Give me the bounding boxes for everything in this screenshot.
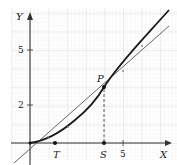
point-s	[102, 141, 106, 145]
label-p: P	[96, 73, 104, 84]
y-tick-2: 2	[18, 100, 24, 110]
origin-point	[29, 142, 32, 145]
label-s: S	[100, 149, 107, 160]
point-t	[53, 141, 57, 145]
x-tick-5: 5	[120, 149, 126, 159]
grid	[11, 8, 177, 160]
tangent-diagram: Y X 5 2 5 P S T	[0, 0, 177, 165]
y-tick-5: 5	[18, 45, 24, 55]
point-p	[102, 85, 106, 89]
x-axis-label: X	[159, 149, 168, 160]
